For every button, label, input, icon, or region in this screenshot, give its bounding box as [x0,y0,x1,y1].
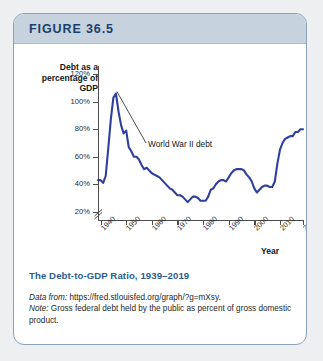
note-label: Note: [29,304,49,313]
figure-header-bar: FIGURE 36.5 [14,14,306,44]
caption-title: The Debt-to-GDP Ratio, 1939–2019 [29,270,189,281]
chart-area: Debt as a percentage of GDP 20%40%60%80%… [14,44,307,269]
plot-svg [14,44,307,269]
source-url: https://fred.stlouisfed.org/graph/?g=mXs… [70,293,221,302]
figure-card: FIGURE 36.5 Debt as a percentage of GDP … [13,13,307,345]
figure-number-label: FIGURE 36.5 [29,22,114,36]
page-background: FIGURE 36.5 Debt as a percentage of GDP … [0,0,323,361]
annotation-world-war-ii-debt: World War II debt [148,139,212,149]
source-label: Data from: [29,293,67,302]
caption-body: Data from: https://fred.stlouisfed.org/g… [29,292,297,326]
annotation-leader-line [117,92,146,144]
note-text: Gross federal debt held by the public as… [29,304,291,324]
